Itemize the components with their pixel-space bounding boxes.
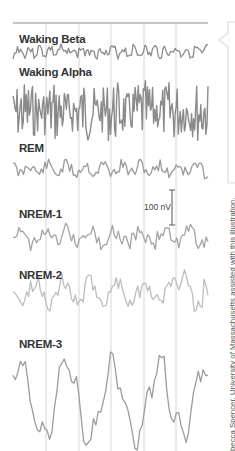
illustration-credit: becca Spencer, University of Massachuset… [228, 197, 235, 451]
label-waking-alpha: Waking Alpha [19, 66, 92, 78]
scale-bar-label: 100 nV [144, 202, 171, 212]
callout-box [219, 22, 235, 183]
label-nrem-2: NREM-2 [19, 269, 62, 281]
label-rem: REM [19, 142, 44, 154]
label-waking-beta: Waking Beta [19, 33, 85, 45]
label-nrem-3: NREM-3 [19, 338, 62, 350]
label-nrem-1: NREM-1 [19, 208, 62, 220]
